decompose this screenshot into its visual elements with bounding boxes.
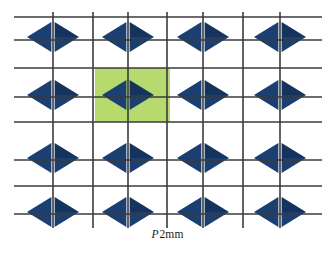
figure-caption: P2mm	[0, 228, 335, 240]
lattice-diagram	[0, 0, 335, 257]
plane-group-figure: P2mm	[0, 0, 335, 257]
plane-group-symbol-suffix: 2mm	[159, 228, 183, 240]
